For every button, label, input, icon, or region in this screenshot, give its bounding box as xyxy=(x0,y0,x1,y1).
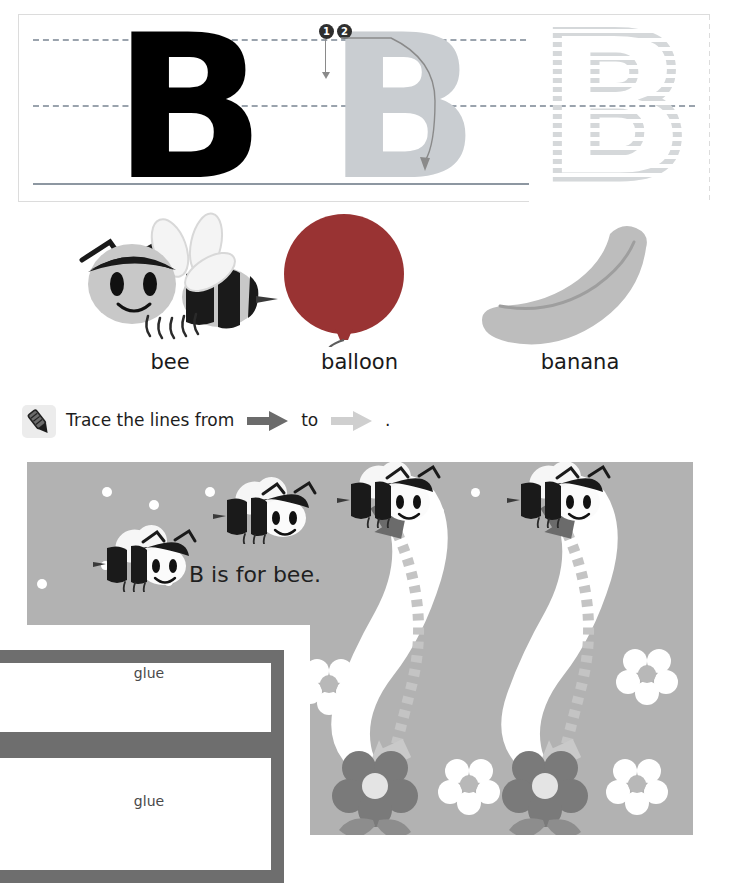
instruction-row: Trace the lines from to . xyxy=(22,404,622,446)
picture-label-balloon: balloon xyxy=(272,350,447,374)
instruction-text-after: . xyxy=(385,410,390,430)
glue-box-2[interactable] xyxy=(0,745,284,883)
letter-solid-B: B xyxy=(113,19,265,197)
instruction-text-middle: to xyxy=(301,410,318,430)
crayon-icon xyxy=(22,405,56,438)
bee-icon xyxy=(499,462,614,528)
stroke-order-badge-1: 1 xyxy=(319,24,334,39)
letter-dotted-outline-B[interactable]: B xyxy=(539,19,691,197)
instruction-text: Trace the lines from to . xyxy=(66,410,390,432)
bee-icon xyxy=(205,472,320,544)
flower-icon xyxy=(325,750,445,835)
flower-icon xyxy=(613,648,683,710)
balloon-icon xyxy=(272,212,447,347)
letter-practice-frame: B B B 1 2 xyxy=(18,14,710,202)
picture-word-row: bee balloon banana xyxy=(0,212,729,397)
picture-cell-banana: banana xyxy=(460,212,700,351)
stroke-arrow-down-icon xyxy=(325,39,326,73)
dot-icon xyxy=(149,500,159,510)
stroke-arrow-curve-icon xyxy=(339,33,451,173)
flower-icon xyxy=(495,750,615,835)
picture-cell-bee: bee xyxy=(60,212,280,351)
picture-label-banana: banana xyxy=(460,350,700,374)
glue-label-1: glue xyxy=(0,665,310,681)
banana-icon xyxy=(460,212,700,347)
flower-icon xyxy=(603,758,673,820)
glue-label-2: glue xyxy=(0,793,310,809)
bee-icon xyxy=(329,462,444,528)
dark-arrow-icon xyxy=(247,410,289,432)
dot-icon xyxy=(102,487,112,497)
bee-icon xyxy=(85,520,200,592)
light-arrow-icon xyxy=(331,410,373,432)
instruction-text-before: Trace the lines from xyxy=(66,410,234,430)
picture-label-bee: bee xyxy=(60,350,280,374)
picture-cell-balloon: balloon xyxy=(272,212,447,351)
bee-icon xyxy=(60,212,280,347)
trace-group-2[interactable] xyxy=(485,462,693,835)
dot-icon xyxy=(37,579,47,589)
panel-caption: B is for bee. xyxy=(189,562,321,587)
glue-card: glue glue xyxy=(0,625,310,883)
